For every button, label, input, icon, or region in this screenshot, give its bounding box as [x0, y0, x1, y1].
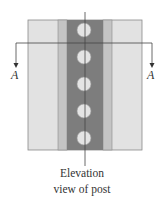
bolt-hole [77, 131, 91, 145]
caption-line-2: view of post [0, 183, 164, 195]
bolt-hole [77, 23, 91, 37]
post-stripe-left [58, 20, 67, 150]
bolt-hole [77, 50, 91, 64]
bolt-hole [77, 104, 91, 118]
section-label-left: A [11, 68, 18, 83]
section-label-right: A [147, 68, 154, 83]
bolt-hole [77, 77, 91, 91]
caption-line-1: Elevation [0, 167, 164, 179]
post-stripe-right [103, 20, 112, 150]
